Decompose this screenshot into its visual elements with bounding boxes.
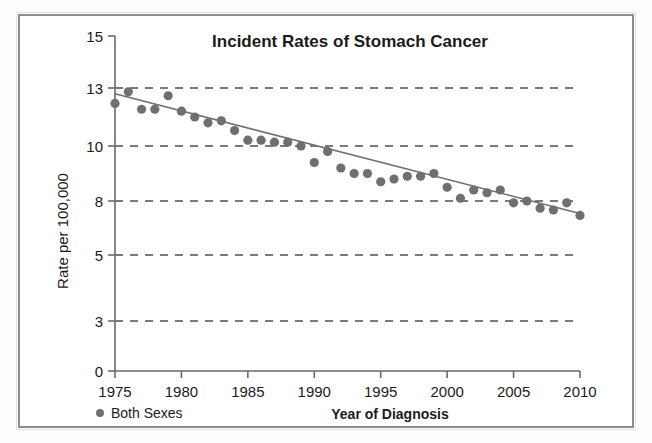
data-point — [562, 198, 571, 207]
data-point — [164, 91, 173, 100]
data-point — [429, 169, 438, 178]
data-point — [150, 105, 159, 114]
data-point — [469, 185, 478, 194]
data-point — [549, 205, 558, 214]
data-point — [243, 136, 252, 145]
data-point — [363, 169, 372, 178]
data-point — [230, 126, 239, 135]
y-tick-label: 8 — [95, 193, 103, 210]
data-point — [482, 188, 491, 197]
data-point — [177, 107, 186, 116]
x-tick-label: 1985 — [231, 383, 264, 400]
x-tick-label: 1990 — [298, 383, 331, 400]
data-point — [190, 112, 199, 121]
y-tick-label: 3 — [95, 313, 103, 330]
y-tick-label: 10 — [86, 138, 103, 155]
y-tick-label: 0 — [95, 363, 103, 380]
y-axis-ticks: 0358101315 — [86, 28, 115, 380]
page-canvas: Incident Rates of Stomach Cancer Rate pe… — [0, 0, 652, 443]
data-point — [283, 138, 292, 147]
data-point — [496, 185, 505, 194]
y-tick-label: 13 — [86, 80, 103, 97]
data-point — [137, 105, 146, 114]
data-point — [336, 163, 345, 172]
x-tick-label: 1980 — [165, 383, 198, 400]
data-point — [376, 177, 385, 186]
data-point — [203, 118, 212, 127]
data-point — [389, 174, 398, 183]
data-point — [110, 99, 119, 108]
data-point — [124, 87, 133, 96]
data-point — [296, 141, 305, 150]
y-tick-label: 15 — [86, 28, 103, 45]
x-tick-label: 1975 — [98, 383, 131, 400]
data-point — [575, 211, 584, 220]
data-point — [456, 194, 465, 203]
x-tick-label: 2000 — [430, 383, 463, 400]
data-point — [416, 172, 425, 181]
data-point — [443, 183, 452, 192]
data-point — [270, 138, 279, 147]
x-axis-ticks: 19751980198519901995200020052010 — [98, 371, 596, 400]
data-point — [403, 172, 412, 181]
figure-frame: Incident Rates of Stomach Cancer Rate pe… — [18, 14, 634, 428]
x-tick-label: 1995 — [364, 383, 397, 400]
data-point — [350, 169, 359, 178]
y-axis-label: Rate per 100,000 — [54, 173, 71, 289]
data-point — [257, 136, 266, 145]
data-point — [509, 198, 518, 207]
chart-title: Incident Rates of Stomach Cancer — [212, 32, 488, 51]
chart-figure: Incident Rates of Stomach Cancer Rate pe… — [20, 16, 632, 426]
x-tick-label: 2005 — [497, 383, 530, 400]
x-axis-label: Year of Diagnosis — [331, 406, 449, 422]
data-point — [536, 204, 545, 213]
data-point — [310, 158, 319, 167]
legend: Both Sexes — [96, 405, 183, 421]
data-point — [323, 147, 332, 156]
legend-label: Both Sexes — [111, 405, 183, 421]
x-tick-label: 2010 — [563, 383, 596, 400]
data-point — [522, 196, 531, 205]
y-tick-label: 5 — [95, 247, 103, 264]
data-point — [217, 116, 226, 125]
chart-svg: Incident Rates of Stomach Cancer Rate pe… — [20, 16, 632, 426]
legend-marker-icon — [96, 409, 104, 417]
